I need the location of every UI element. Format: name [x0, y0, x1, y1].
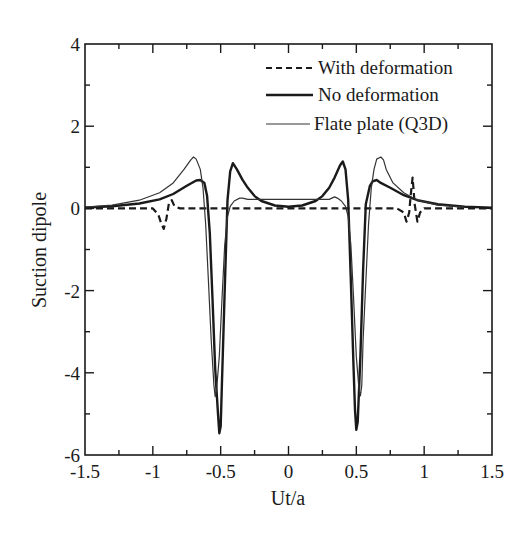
plot-frame [85, 44, 492, 455]
y-tick-label: -2 [64, 281, 80, 302]
series-flate-plate-q3d [85, 157, 465, 397]
y-tick-label: 2 [71, 116, 81, 137]
y-tick-label: 4 [71, 34, 81, 55]
y-axis-label: Suction dipole [28, 192, 51, 308]
y-tick-label: -4 [64, 363, 80, 384]
y-tick-label: 0 [71, 198, 81, 219]
x-tick-label: 0.5 [344, 461, 368, 482]
suction-dipole-chart: -1.5-1-0.500.511.5 -6-4-2024 Ut/a Suctio… [0, 0, 529, 533]
x-tick-label: -1 [145, 461, 161, 482]
legend-label-with-deformation: With deformation [318, 57, 453, 78]
y-tick-label: -6 [64, 445, 80, 466]
x-tick-label: 1 [419, 461, 429, 482]
legend: With deformation No deformation Flate pl… [266, 57, 453, 135]
legend-label-no-deformation: No deformation [318, 84, 439, 105]
x-tick-label: -0.5 [206, 461, 236, 482]
legend-label-flat-plate: Flate plate (Q3D) [314, 113, 448, 135]
x-axis-label: Ut/a [271, 487, 306, 509]
plot-curves [85, 157, 492, 433]
x-tick-label: 1.5 [480, 461, 504, 482]
x-tick-label: 0 [284, 461, 294, 482]
x-tick-labels: -1.5-1-0.500.511.5 [70, 461, 504, 482]
y-tick-labels: -6-4-2024 [64, 34, 80, 466]
axis-ticks [85, 44, 492, 455]
series-no-deformation [85, 162, 492, 434]
